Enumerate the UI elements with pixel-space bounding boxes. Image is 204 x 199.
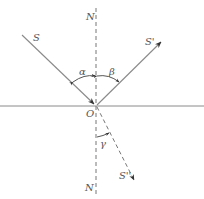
angle-arc-gamma: [97, 133, 109, 137]
reflected-ray: [97, 42, 161, 105]
label-origin: O: [86, 108, 94, 119]
reflection-refraction-diagram: N S S' α β O γ S'' N: [0, 0, 204, 199]
diagram-canvas: N S S' α β O γ S'' N: [0, 0, 204, 199]
label-refracted-ray: S'': [119, 170, 131, 181]
label-reflected-ray: S': [145, 36, 155, 47]
angle-arc-beta: [97, 76, 119, 82]
label-normal-top: N: [85, 11, 96, 22]
label-incident-ray: S: [33, 32, 40, 43]
label-gamma: γ: [100, 138, 106, 149]
label-beta: β: [108, 66, 115, 77]
label-normal-bottom: N: [84, 182, 95, 193]
label-alpha: α: [79, 66, 86, 77]
